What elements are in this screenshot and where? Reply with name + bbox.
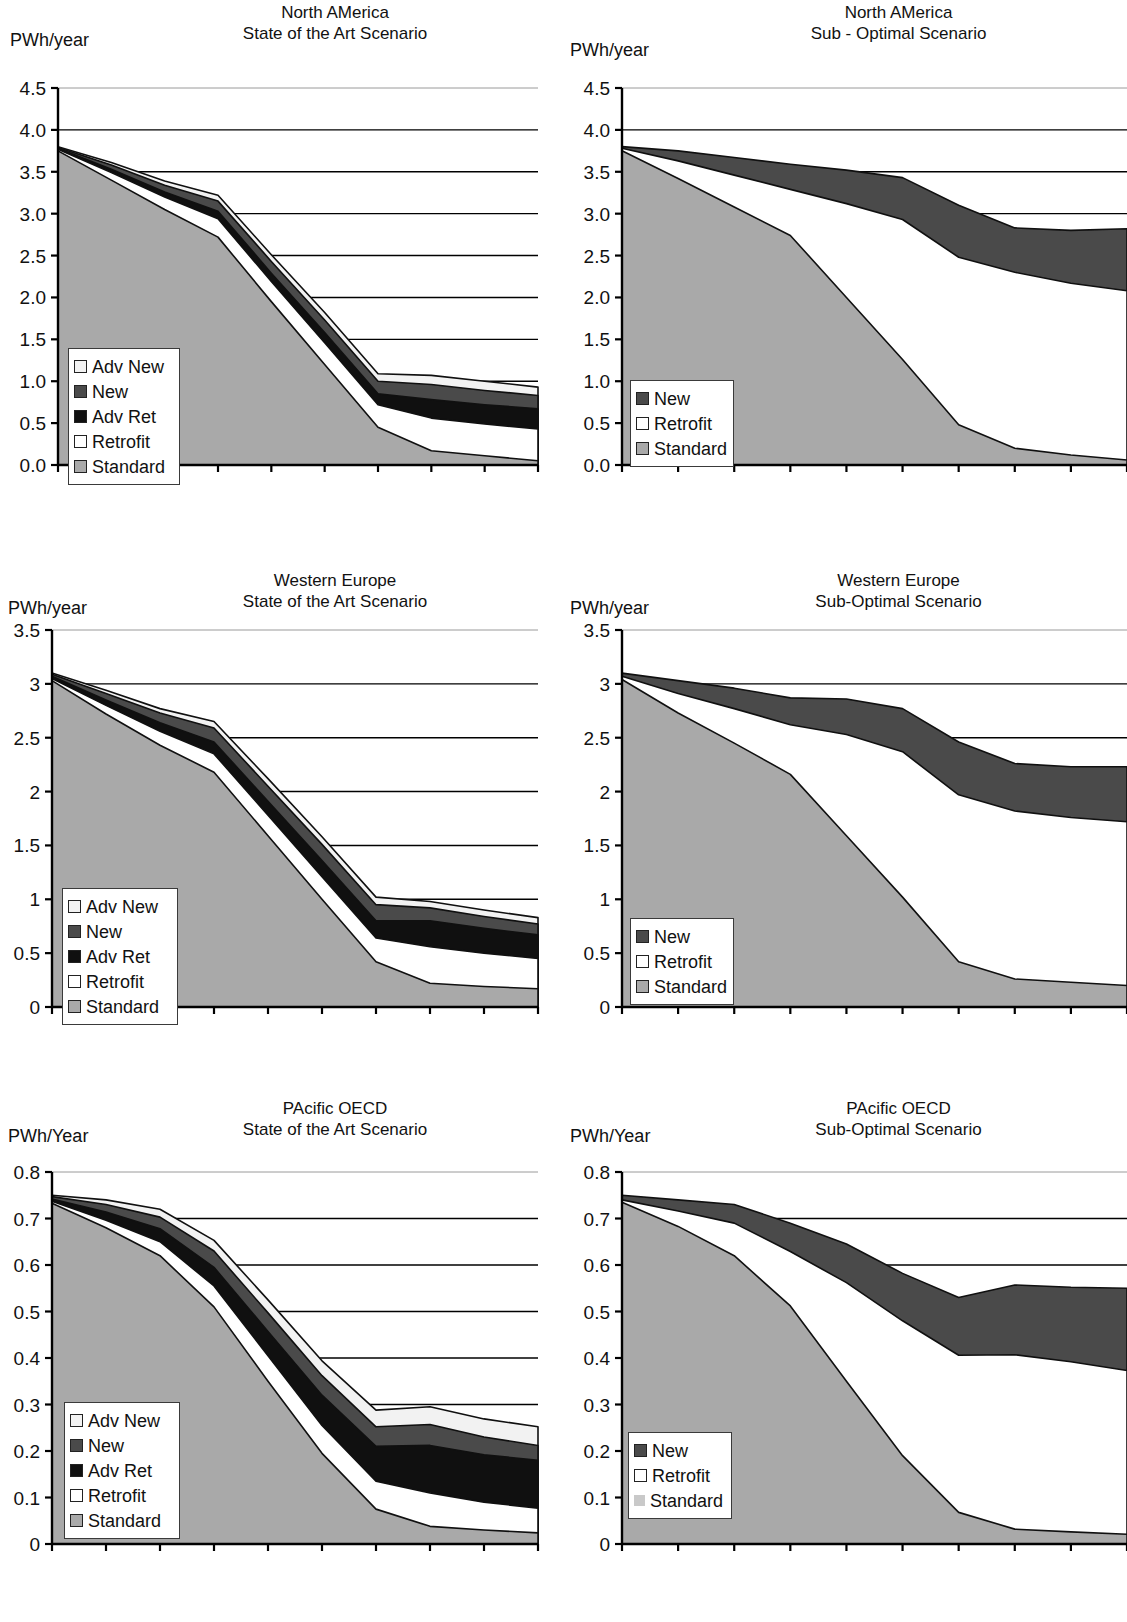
legend-label: New [654, 928, 690, 946]
y-axis-tick-label: 1.5 [584, 329, 610, 350]
y-axis-tick-label: 0.5 [14, 1302, 40, 1323]
legend-swatch-icon [70, 1464, 83, 1477]
legend-item: Adv Ret [70, 1458, 172, 1483]
legend-item: Standard [70, 1508, 172, 1533]
legend-item: Adv Ret [68, 944, 170, 969]
y-axis-tick-label: 0.5 [584, 1302, 610, 1323]
legend-swatch-icon [70, 1489, 83, 1502]
legend-item: Standard [634, 1488, 724, 1513]
y-axis-tick-label: 0.4 [14, 1348, 41, 1369]
y-axis-tick-label: 1.0 [584, 371, 610, 392]
y-axis-tick-label: 0.4 [584, 1348, 611, 1369]
plot-area: 0.80.70.60.50.40.30.20.10200520102015202… [0, 1080, 560, 1622]
y-axis-tick-label: 0.5 [20, 413, 46, 434]
legend-item: Retrofit [70, 1483, 172, 1508]
y-axis-tick-label: 3.5 [584, 620, 610, 641]
legend-item: New [74, 379, 172, 404]
legend-item: Retrofit [74, 429, 172, 454]
legend-label: Standard [654, 440, 727, 458]
chart-panel-western-europe-sota: Western EuropeState of the Art ScenarioP… [0, 540, 560, 1080]
legend-label: Retrofit [86, 973, 144, 991]
legend-swatch-icon [68, 1000, 81, 1013]
y-axis-tick-label: 2.5 [584, 246, 610, 267]
y-axis-tick-label: 3 [29, 674, 40, 695]
y-axis-tick-label: 0.7 [14, 1209, 40, 1230]
y-axis-tick-label: 0.7 [584, 1209, 610, 1230]
legend-swatch-icon [74, 360, 87, 373]
y-axis-tick-label: 0 [599, 1534, 610, 1555]
legend-swatch-icon [634, 1469, 647, 1482]
legend-swatch-icon [68, 900, 81, 913]
legend-label: Retrofit [652, 1467, 710, 1485]
legend-item: Standard [68, 994, 170, 1019]
legend-item: Retrofit [636, 411, 726, 436]
legend-label: Adv Ret [88, 1462, 152, 1480]
chart-legend: Adv NewNewAdv RetRetrofitStandard [62, 888, 178, 1025]
y-axis-tick-label: 2.0 [20, 287, 46, 308]
y-axis-tick-label: 1.0 [20, 371, 46, 392]
legend-item: Adv Ret [74, 404, 172, 429]
legend-label: Adv New [92, 358, 164, 376]
legend-item: New [70, 1433, 172, 1458]
legend-swatch-icon [74, 460, 87, 473]
legend-label: Standard [92, 458, 165, 476]
chart-legend: NewRetrofitStandard [630, 380, 734, 467]
y-axis-tick-label: 0.5 [14, 943, 40, 964]
chart-panel-pacific-oecd-sub: PAcific OECDSub-Optimal ScenarioPWh/Year… [560, 1080, 1127, 1622]
y-axis-tick-label: 0.8 [14, 1162, 40, 1183]
y-axis-tick-label: 2.5 [20, 246, 46, 267]
legend-label: Adv Ret [86, 948, 150, 966]
y-axis-tick-label: 0.3 [14, 1395, 40, 1416]
legend-swatch-icon [70, 1439, 83, 1452]
legend-swatch-icon [74, 385, 87, 398]
chart-legend: NewRetrofitStandard [630, 918, 734, 1005]
y-axis-tick-label: 0.0 [584, 455, 610, 476]
legend-label: Retrofit [654, 953, 712, 971]
y-axis-tick-label: 0.5 [584, 413, 610, 434]
legend-item: New [634, 1438, 724, 1463]
legend-swatch-icon [636, 392, 649, 405]
y-axis-tick-label: 1 [29, 889, 40, 910]
legend-item: New [68, 919, 170, 944]
y-axis-tick-label: 4.5 [20, 78, 46, 99]
legend-label: Adv New [86, 898, 158, 916]
chart-legend: Adv NewNewAdv RetRetrofitStandard [68, 348, 180, 485]
chart-panel-pacific-oecd-sota: PAcific OECDState of the Art ScenarioPWh… [0, 1080, 560, 1622]
legend-label: Adv Ret [92, 408, 156, 426]
y-axis-tick-label: 3.5 [584, 162, 610, 183]
legend-label: New [88, 1437, 124, 1455]
chart-panel-western-europe-sub: Western EuropeSub-Optimal ScenarioPWh/ye… [560, 540, 1127, 1080]
chart-panel-north-america-sub: North AMericaSub - Optimal ScenarioPWh/y… [560, 0, 1127, 540]
legend-swatch-icon [636, 930, 649, 943]
y-axis-tick-label: 0.2 [14, 1441, 40, 1462]
legend-item: Adv New [74, 354, 172, 379]
y-axis-tick-label: 3.5 [20, 162, 46, 183]
y-axis-tick-label: 0 [29, 997, 40, 1018]
legend-item: Adv New [68, 894, 170, 919]
legend-item: Standard [636, 436, 726, 461]
plot-area: 0.80.70.60.50.40.30.20.10200520102015202… [560, 1080, 1127, 1622]
legend-swatch-icon [70, 1414, 83, 1427]
legend-item: Retrofit [634, 1463, 724, 1488]
y-axis-tick-label: 2.0 [584, 287, 610, 308]
legend-label: Retrofit [654, 415, 712, 433]
legend-swatch-icon [68, 975, 81, 988]
legend-swatch-icon [74, 435, 87, 448]
legend-swatch-icon [636, 417, 649, 430]
y-axis-tick-label: 0 [29, 1534, 40, 1555]
legend-swatch-icon [636, 980, 649, 993]
y-axis-tick-label: 2.5 [14, 728, 40, 749]
legend-swatch-icon [74, 410, 87, 423]
legend-swatch-icon [634, 1495, 645, 1506]
legend-swatch-icon [70, 1514, 83, 1527]
chart-panel-north-america-sota: North AMericaState of the Art ScenarioPW… [0, 0, 560, 540]
legend-item: New [636, 924, 726, 949]
legend-item: Adv New [70, 1408, 172, 1433]
y-axis-tick-label: 3.0 [20, 204, 46, 225]
legend-label: New [652, 1442, 688, 1460]
legend-swatch-icon [634, 1444, 647, 1457]
legend-swatch-icon [636, 955, 649, 968]
y-axis-tick-label: 2.5 [584, 728, 610, 749]
legend-label: Standard [650, 1492, 723, 1510]
y-axis-tick-label: 0.6 [584, 1255, 610, 1276]
